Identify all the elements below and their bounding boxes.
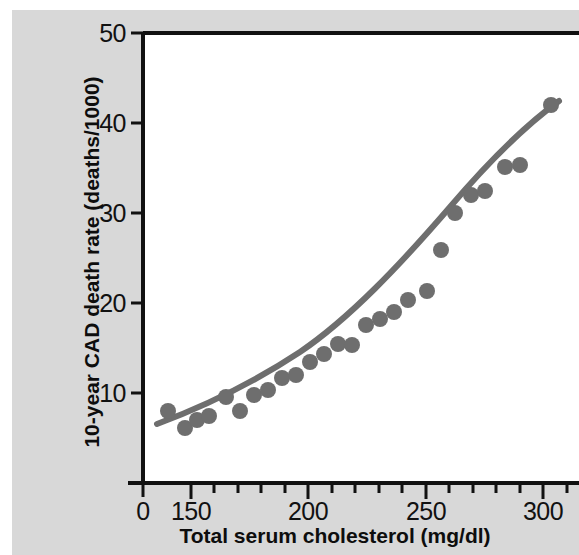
data-point	[330, 336, 346, 352]
data-point	[433, 242, 449, 258]
x-axis-ticks	[191, 483, 567, 499]
data-point	[447, 205, 463, 221]
data-point	[232, 403, 248, 419]
data-point	[344, 337, 360, 353]
data-point	[543, 97, 559, 113]
chart-figure: 50 40 30 20 10 0 150 200 250 300 10-year…	[0, 0, 579, 555]
data-point	[316, 346, 332, 362]
x-tick-label-0: 0	[128, 497, 158, 526]
data-point	[302, 354, 318, 370]
x-tick-label-200: 200	[283, 497, 333, 526]
data-point	[358, 317, 374, 333]
y-tick-label-50: 50	[93, 19, 126, 48]
data-point	[201, 408, 217, 424]
data-point	[400, 292, 416, 308]
data-point	[419, 283, 435, 299]
y-axis-title: 10-year CAD death rate (deaths/1000)	[80, 52, 104, 472]
x-axis-title: Total serum cholesterol (mg/dl)	[100, 524, 570, 548]
data-point	[477, 183, 493, 199]
data-point	[218, 389, 234, 405]
data-point	[160, 403, 176, 419]
data-point	[497, 159, 513, 175]
data-point	[463, 187, 479, 203]
data-point	[386, 304, 402, 320]
data-point	[288, 367, 304, 383]
data-point	[260, 382, 276, 398]
data-point	[246, 387, 262, 403]
data-point	[274, 370, 290, 386]
x-tick-label-150: 150	[166, 497, 216, 526]
x-tick-label-300: 300	[518, 497, 568, 526]
x-tick-label-250: 250	[401, 497, 451, 526]
data-point	[512, 157, 528, 173]
data-point	[372, 311, 388, 327]
